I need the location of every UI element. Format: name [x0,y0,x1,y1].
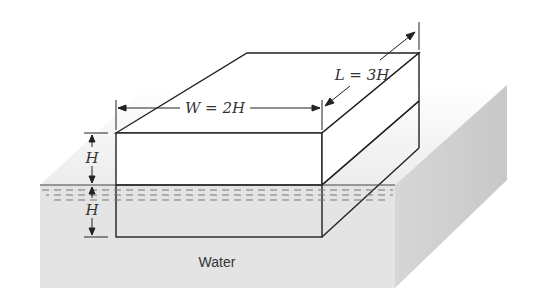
length-label: L = 3H [334,66,391,84]
diagram-canvas: W = 2H L = 3H H H Water [0,0,536,300]
width-label: W = 2H [185,99,246,117]
water-label: Water [199,254,236,270]
block-front-face-above [116,133,322,185]
height-below-label: H [84,201,99,219]
height-above-label: H [84,149,99,167]
